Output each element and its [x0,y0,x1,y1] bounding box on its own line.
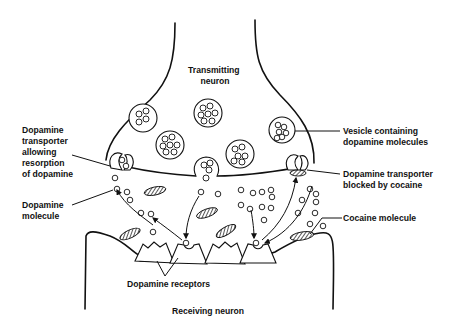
receiving-neuron [85,232,334,309]
vesicles [129,99,295,181]
labels: Transmitting neuron Vesicle containing d… [22,65,435,316]
label-transmitting-neuron: Transmitting neuron [188,65,242,86]
synapse-diagram: Transmitting neuron Vesicle containing d… [0,0,460,331]
label-vesicle: Vesicle containing dopamine molecules [343,126,428,147]
label-dopamine-receptors: Dopamine receptors [127,279,210,289]
label-dopamine-molecule: Dopamine molecule [22,200,66,221]
transmitting-neuron [106,20,314,176]
label-receiving-neuron: Receiving neuron [172,306,244,316]
label-cocaine-molecule: Cocaine molecule [343,213,416,223]
label-transporter-blocked: Dopamine transporter blocked by cocaine [343,169,435,190]
leader-lines [72,131,342,276]
transporter-right [286,155,308,176]
transporter-left [110,153,133,181]
label-transporter-allowing: Dopamine transporter allowing resorption… [22,125,73,179]
